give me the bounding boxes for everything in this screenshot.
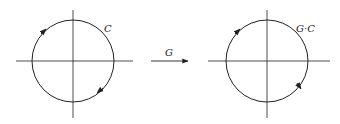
transform-arrow: G [151,47,188,61]
curve-label: C [104,23,112,34]
right-panel: G·C [208,10,330,118]
left-panel: C [16,10,133,118]
transform-label: G [165,47,173,58]
transformation-diagram: C G G·C [0,0,340,124]
curve-label: G·C [296,23,315,34]
